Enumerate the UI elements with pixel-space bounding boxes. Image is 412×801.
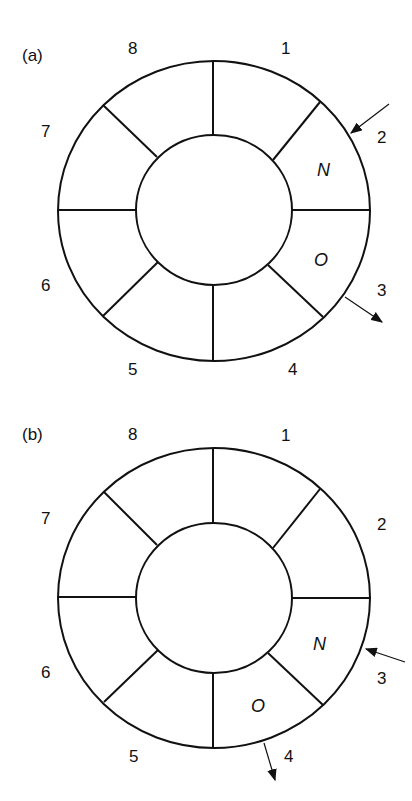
marker-o: O [251,696,265,716]
sector-label-5: 5 [128,360,137,379]
sector-label-3: 3 [377,281,386,300]
sector-label-8: 8 [128,39,137,58]
sector-label-3: 3 [377,669,386,688]
sector-label-4: 4 [284,747,293,766]
sector-label-7: 7 [41,509,50,528]
spokes [58,448,370,748]
inner-circle [136,523,292,673]
sector-label-5: 5 [129,747,138,766]
panel-a: (a) 1 2 3 4 5 6 7 8 N O [22,39,389,379]
panel-label: (b) [22,425,43,444]
inner-circle [136,135,292,285]
sector-label-2: 2 [377,128,386,147]
sector-label-1: 1 [281,426,290,445]
output-arrow-icon [345,297,382,322]
sector-label-7: 7 [41,122,50,141]
ring-diagram: (a) 1 2 3 4 5 6 7 8 N O (b) 1 2 3 4 5 [0,0,412,801]
sector-label-6: 6 [41,276,50,295]
panel-b: (b) 1 2 3 4 5 6 7 8 N O [22,425,405,780]
sector-label-4: 4 [288,360,297,379]
input-arrow-icon [366,649,405,662]
spokes [58,61,370,361]
sector-label-6: 6 [41,663,50,682]
marker-n: N [317,160,331,180]
output-arrow-icon [264,743,275,780]
panel-label: (a) [22,46,43,65]
sector-label-8: 8 [128,425,137,444]
sector-label-2: 2 [377,515,386,534]
marker-o: O [314,250,328,270]
sector-label-1: 1 [281,39,290,58]
marker-n: N [313,634,327,654]
